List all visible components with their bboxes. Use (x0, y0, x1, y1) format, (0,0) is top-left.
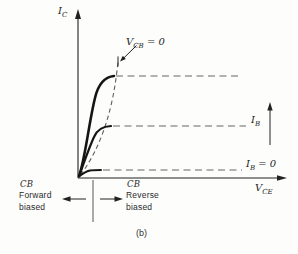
reverse-region-line2: Reverse (126, 191, 159, 200)
forward-region-arrow-icon (62, 196, 86, 201)
forward-region-line2: Forward (19, 191, 52, 200)
increasing-ib-arrow-icon (267, 102, 272, 145)
collector-curve-bottom (79, 170, 101, 177)
y-axis-label: IC (58, 6, 67, 19)
x-axis (78, 175, 287, 181)
x-axis-arrowhead-icon (277, 175, 287, 181)
figure-caption: (b) (136, 228, 147, 238)
forward-region-line3: biased (19, 203, 45, 212)
ib-zero-label: IB = 0 (246, 159, 276, 172)
reverse-region-cb-label: CB (127, 180, 140, 189)
y-axis-arrowhead-icon (75, 9, 81, 19)
x-axis-label: VCE (255, 183, 273, 196)
forward-region-cb-label: CB (20, 180, 33, 189)
reverse-region-line3: biased (126, 203, 152, 212)
vcb-zero-label: VCB = 0 (126, 37, 165, 50)
y-axis (75, 9, 81, 178)
reverse-region-arrow-icon (100, 196, 123, 201)
figure-transistor-output-characteristics: IC VCE VCB = 0 IB IB = 0 CB Forward bias… (0, 0, 298, 254)
ib-label: IB (251, 115, 260, 128)
